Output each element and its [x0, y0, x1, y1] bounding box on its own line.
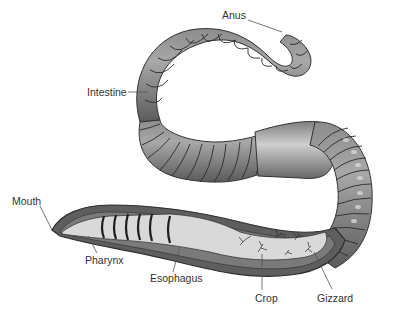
label-crop: Crop [255, 293, 278, 304]
label-pharynx: Pharynx [85, 255, 124, 266]
label-esophagus: Esophagus [150, 273, 203, 284]
label-mouth: Mouth [12, 196, 41, 207]
label-gizzard: Gizzard [317, 293, 353, 304]
label-anus: Anus [222, 10, 246, 21]
worm-tail [137, 29, 311, 122]
label-intestine: Intestine [87, 87, 127, 98]
earthworm-illustration [0, 0, 399, 336]
worm-midbody [139, 120, 270, 182]
